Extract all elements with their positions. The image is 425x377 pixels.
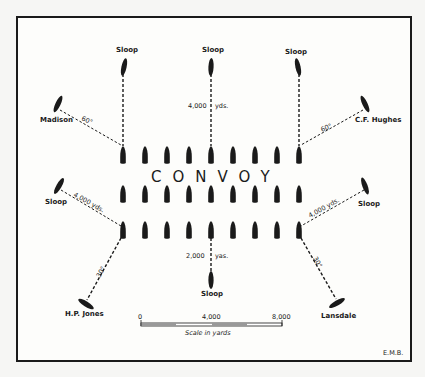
scale-tick-4000: 4,000 <box>202 313 221 321</box>
label-cf-hughes: C.F. Hughes <box>355 116 401 124</box>
label-sloop-mid-right: Sloop <box>358 200 380 208</box>
scale-caption: Scale in yards <box>185 329 231 337</box>
label-sloop-top-right: Sloop <box>285 48 307 56</box>
label-sloop-mid-left: Sloop <box>45 198 67 206</box>
label-sloop-top-center: Sloop <box>202 46 224 54</box>
distance-top-center: 4,000 <box>188 102 207 110</box>
scale-tick-8000: 8,000 <box>272 313 291 321</box>
distance-top-center-unit: yds. <box>215 102 228 110</box>
label-hp-jones: H.P. Jones <box>65 310 104 318</box>
credit: E.M.B. <box>383 349 403 357</box>
label-madison: Madison <box>40 116 73 124</box>
escort-sloop-bottom-center <box>208 271 213 289</box>
distance-bottom-center-unit: yas. <box>215 252 228 260</box>
convoy-title: CONVOY <box>151 168 281 186</box>
convoy-escort-diagram: CONVOY Sloop Sloop Sloop Madison C.F. Hu… <box>0 0 425 377</box>
distance-bottom-center: 2,000 <box>186 252 205 260</box>
scale-tick-0: 0 <box>138 313 142 321</box>
label-sloop-top-left: Sloop <box>116 46 138 54</box>
label-sloop-bottom-center: Sloop <box>201 290 223 298</box>
label-lansdale: Lansdale <box>321 312 356 320</box>
